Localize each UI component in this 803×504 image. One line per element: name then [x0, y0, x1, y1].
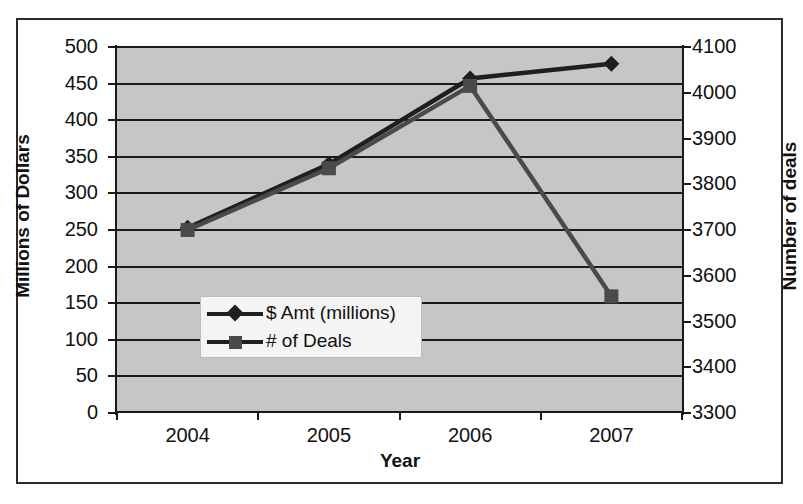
chart-figure: 050100150200250300350400450500 330034003… [0, 0, 803, 504]
series-line [188, 86, 612, 296]
data-point-square [463, 79, 477, 93]
legend-item-amount: $ Amt (millions) [207, 300, 396, 326]
legend-item-deals: # of Deals [207, 328, 352, 354]
legend: $ Amt (millions) # of Deals [200, 296, 422, 358]
legend-label-deals: # of Deals [266, 330, 352, 352]
right-axis-title: Number of deals [779, 116, 801, 316]
data-point-diamond [603, 56, 619, 72]
data-point-square [604, 289, 618, 303]
x-axis-title: Year [300, 450, 500, 472]
left-axis-title: Millions of Dollars [12, 116, 34, 316]
data-point-square [181, 223, 195, 237]
legend-marker-square-icon [207, 331, 263, 351]
series-layer [0, 0, 803, 504]
legend-label-amount: $ Amt (millions) [266, 302, 396, 324]
legend-marker-diamond-icon [207, 303, 263, 323]
data-point-square [322, 161, 336, 175]
series-deals [181, 79, 619, 303]
